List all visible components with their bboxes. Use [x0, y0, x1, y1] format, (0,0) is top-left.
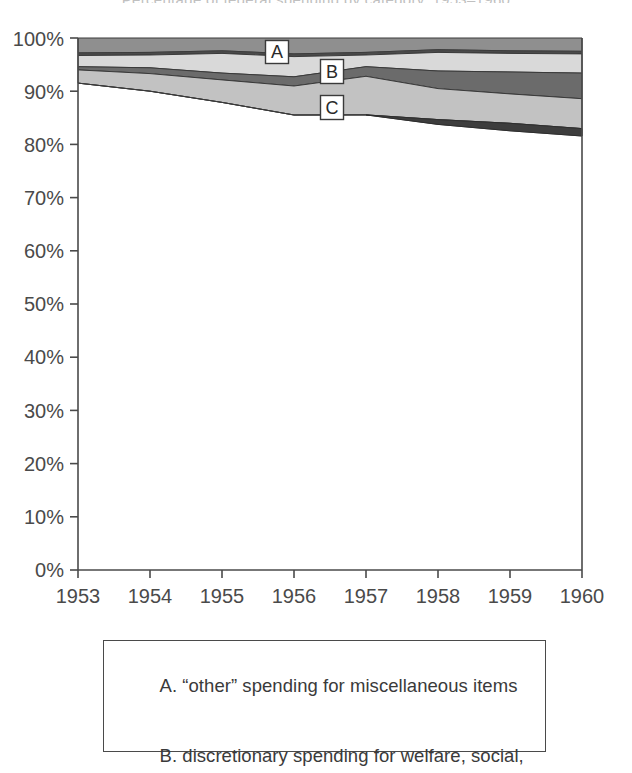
y-tick-label-0: 0% [35, 559, 64, 581]
y-tick-label-40: 40% [24, 346, 64, 368]
marker-b: B [321, 60, 344, 84]
legend-text-b: discretionary spending for welfare, soci… [177, 745, 524, 766]
marker-c: C [321, 96, 344, 120]
legend-list: A. “other” spending for miscellaneous it… [104, 641, 545, 773]
y-tick-label-30: 30% [24, 400, 64, 422]
x-tick-label-1953: 1953 [56, 585, 101, 607]
figure-container: Percentage of federal spending by catego… [0, 0, 632, 773]
marker-c-label: C [326, 98, 339, 118]
legend-text-a: “other” spending for miscellaneous items [177, 675, 517, 696]
y-tick-label-20: 20% [24, 453, 64, 475]
y-tick-label-100: 100% [13, 28, 64, 50]
x-tick-label-1957: 1957 [344, 585, 389, 607]
x-tick-label-1958: 1958 [416, 585, 461, 607]
x-tick-label-1955: 1955 [200, 585, 245, 607]
legend-item-b: B. discretionary spending for welfare, s… [118, 721, 545, 773]
y-tick-label-90: 90% [24, 81, 64, 103]
stacked-area-chart: 100% 90% 80% 70% 60% 50% 40% 30% 20% 10%… [0, 0, 632, 620]
x-tick-label-1959: 1959 [488, 585, 533, 607]
x-tick-label-1960: 1960 [560, 585, 605, 607]
legend-box: A. “other” spending for miscellaneous it… [103, 640, 546, 752]
legend-key-a: A. [160, 675, 178, 696]
x-tick-label-1956: 1956 [272, 585, 317, 607]
x-axis-ticks [78, 570, 582, 578]
marker-b-label: B [326, 62, 338, 82]
y-tick-label-80: 80% [24, 134, 64, 156]
y-axis-ticks [70, 38, 78, 570]
x-tick-label-1954: 1954 [128, 585, 173, 607]
y-tick-label-10: 10% [24, 506, 64, 528]
legend-key-b: B. [160, 745, 178, 766]
marker-a-label: A [271, 42, 283, 62]
y-tick-label-70: 70% [24, 187, 64, 209]
marker-a: A [266, 41, 289, 64]
y-tick-label-60: 60% [24, 240, 64, 262]
y-tick-label-50: 50% [24, 293, 64, 315]
legend-item-a: A. “other” spending for miscellaneous it… [118, 650, 545, 721]
